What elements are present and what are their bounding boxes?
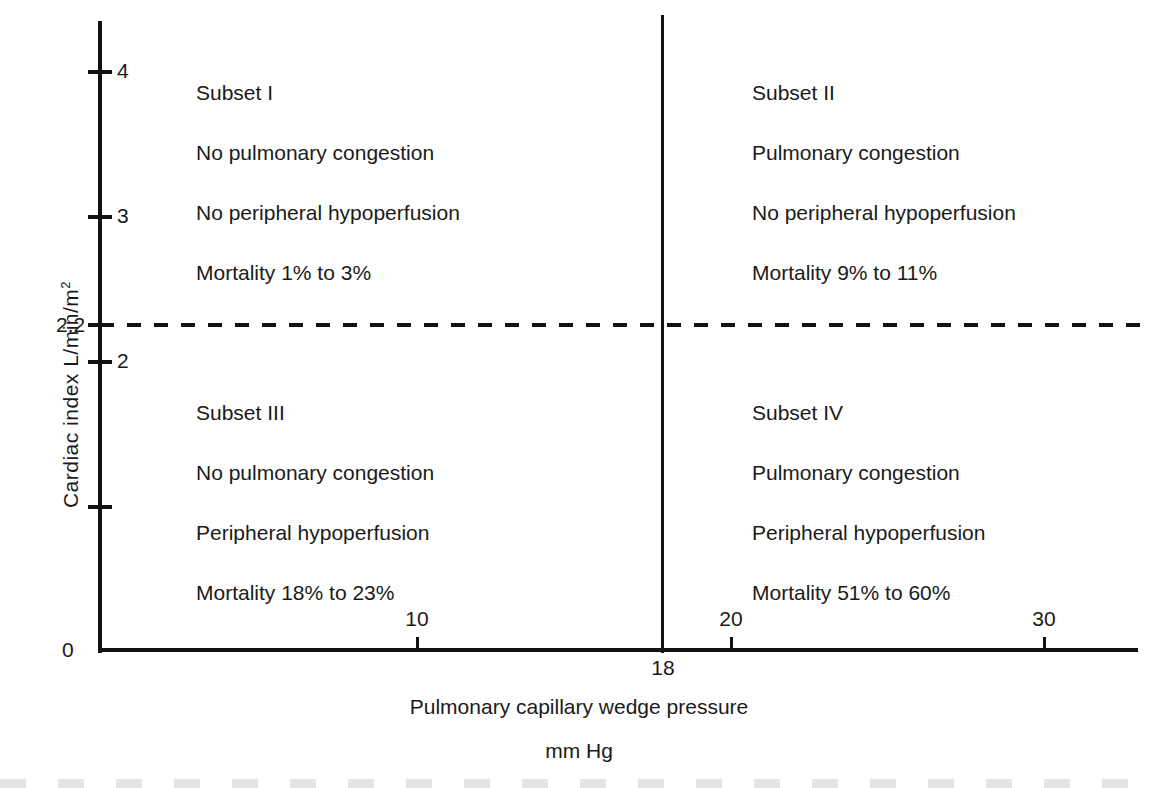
subset-iii-congestion: No pulmonary congestion <box>196 462 434 483</box>
subset-iv-perfusion: Peripheral hypoperfusion <box>752 522 985 543</box>
y-tick-mark-2-2 <box>88 323 112 327</box>
x-tick-label-10: 10 <box>405 608 428 629</box>
y-tick-mark-3 <box>88 215 112 219</box>
quadrant-subset-iii: Subset III No pulmonary congestion Perip… <box>196 402 434 603</box>
y-tick-label-0: 0 <box>62 639 74 660</box>
reference-line-wedge-pressure-18 <box>661 15 664 653</box>
x-axis-title: Pulmonary capillary wedge pressure <box>0 696 1158 717</box>
x-tick-mark-20 <box>730 637 733 650</box>
scan-artifact-band <box>0 779 1158 788</box>
x-tick-label-30: 30 <box>1032 608 1055 629</box>
subset-iv-congestion: Pulmonary congestion <box>752 462 985 483</box>
subset-ii-mortality: Mortality 9% to 11% <box>752 262 1016 283</box>
subset-iv-mortality: Mortality 51% to 60% <box>752 582 985 603</box>
y-tick-mark-1-unlabeled <box>88 505 112 509</box>
x-tick-label-20: 20 <box>719 608 742 629</box>
subset-iii-perfusion: Peripheral hypoperfusion <box>196 522 434 543</box>
subset-iii-title: Subset III <box>196 402 434 423</box>
y-axis-title-text: Cardiac index L/min/m <box>59 289 82 508</box>
reference-line-cardiac-index-2-2 <box>100 323 1140 327</box>
subset-i-congestion: No pulmonary congestion <box>196 142 460 163</box>
y-tick-mark-4 <box>88 70 112 74</box>
x-tick-mark-10 <box>416 637 419 650</box>
forrester-subsets-chart: 4 3 2.2 2 0 10 18 20 30 Cardiac index L/… <box>0 0 1158 788</box>
subset-ii-title: Subset II <box>752 82 1016 103</box>
y-axis-title-superscript: 2 <box>58 281 73 289</box>
x-axis-line <box>98 648 1138 652</box>
subset-ii-perfusion: No peripheral hypoperfusion <box>752 202 1016 223</box>
y-tick-label-4: 4 <box>117 60 129 81</box>
quadrant-subset-iv: Subset IV Pulmonary congestion Periphera… <box>752 402 985 603</box>
quadrant-subset-ii: Subset II Pulmonary congestion No periph… <box>752 82 1016 283</box>
x-axis-units-label: mm Hg <box>0 740 1158 761</box>
x-tick-label-18: 18 <box>651 657 674 678</box>
y-axis-title: Cardiac index L/min/m2 <box>54 195 83 595</box>
subset-iv-title: Subset IV <box>752 402 985 423</box>
subset-i-perfusion: No peripheral hypoperfusion <box>196 202 460 223</box>
subset-iii-mortality: Mortality 18% to 23% <box>196 582 434 603</box>
quadrant-subset-i: Subset I No pulmonary congestion No peri… <box>196 82 460 283</box>
subset-i-title: Subset I <box>196 82 460 103</box>
y-tick-label-3: 3 <box>117 205 129 226</box>
subset-i-mortality: Mortality 1% to 3% <box>196 262 460 283</box>
y-tick-mark-2 <box>88 360 112 364</box>
x-tick-mark-30 <box>1043 637 1046 650</box>
y-axis-line <box>98 21 102 653</box>
y-tick-label-2: 2 <box>117 350 129 371</box>
subset-ii-congestion: Pulmonary congestion <box>752 142 1016 163</box>
